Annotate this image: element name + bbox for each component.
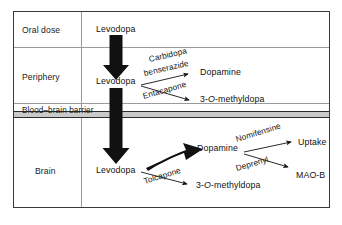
node-dopamine-periphery: Dopamine [200, 67, 241, 77]
row-divider-periphery-bbb [14, 103, 329, 104]
methyldopa-o-italic: O [208, 94, 215, 104]
node-dopamine-brain: Dopamine [197, 143, 238, 153]
node-3-o-methyldopa-brain: 3-O-methyldopa [196, 180, 261, 190]
row-divider-oral-periphery [14, 47, 329, 48]
methyldopa-prefix: 3- [200, 94, 208, 104]
node-uptake: Uptake [298, 137, 326, 147]
methyldopa-prefix: 3- [196, 180, 204, 190]
node-3-o-methyldopa-periphery: 3-O-methyldopa [200, 94, 265, 104]
methyldopa-suffix: -methyldopa [211, 180, 261, 190]
methyldopa-o-italic: O [204, 180, 211, 190]
node-mao-b: MAO-B [296, 170, 325, 180]
methyldopa-suffix: -methyldopa [215, 94, 265, 104]
node-levodopa-brain: Levodopa [96, 165, 135, 175]
levodopa-pathway-diagram: Oral dose Periphery Blood–brain barrier … [0, 0, 342, 225]
node-levodopa-oral-dose: Levodopa [96, 24, 135, 34]
row-label-periphery: Periphery [22, 72, 60, 82]
node-levodopa-periphery: Levodopa [96, 76, 135, 86]
row-label-oral-dose: Oral dose [22, 25, 60, 35]
row-label-brain: Brain [35, 166, 56, 176]
row-label-blood-brain-barrier: Blood–brain barrier [22, 106, 94, 115]
